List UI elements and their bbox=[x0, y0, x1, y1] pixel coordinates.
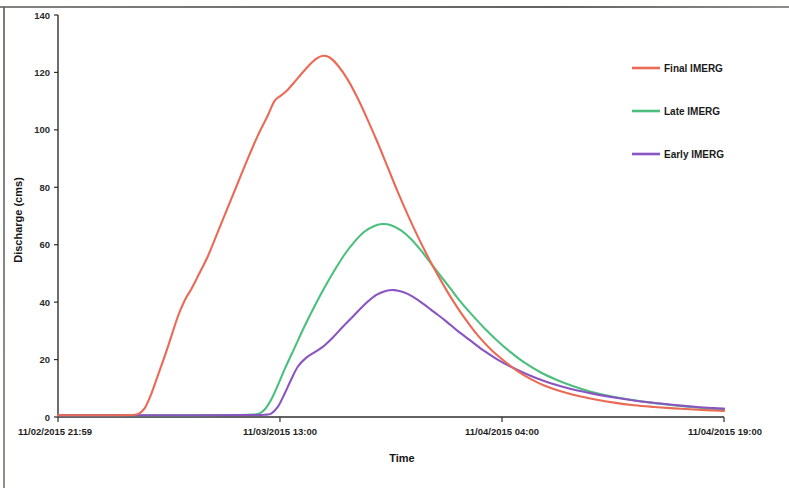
y-axis-title: Discharge (cms) bbox=[12, 177, 24, 263]
x-tick-label: 11/04/2015 04:00 bbox=[465, 426, 539, 437]
x-tick-label: 11/04/2015 19:00 bbox=[688, 426, 762, 437]
y-tick-label: 100 bbox=[34, 124, 50, 135]
x-axis-ticks: 11/02/2015 21:5911/03/2015 13:0011/04/20… bbox=[18, 417, 762, 437]
y-tick-label: 60 bbox=[39, 239, 50, 250]
series-line-late-imerg bbox=[58, 224, 724, 415]
series-line-final-imerg bbox=[58, 56, 724, 416]
y-tick-label: 120 bbox=[34, 67, 50, 78]
y-tick-label: 0 bbox=[45, 412, 50, 423]
x-axis-title: Time bbox=[389, 452, 414, 464]
y-tick-label: 40 bbox=[39, 297, 50, 308]
y-tick-label: 80 bbox=[39, 182, 50, 193]
y-tick-label: 20 bbox=[39, 354, 50, 365]
series-line-early-imerg bbox=[58, 290, 724, 415]
x-tick-label: 11/02/2015 21:59 bbox=[18, 426, 92, 437]
y-axis-ticks: 020406080100120140 bbox=[34, 10, 58, 423]
y-tick-label: 140 bbox=[34, 10, 50, 21]
legend-label-final-imerg: Final IMERG bbox=[664, 63, 723, 74]
legend-label-early-imerg: Early IMERG bbox=[664, 149, 724, 160]
legend-label-late-imerg: Late IMERG bbox=[664, 106, 720, 117]
data-series-group bbox=[58, 56, 724, 416]
chart-canvas: 020406080100120140 11/02/2015 21:5911/03… bbox=[0, 0, 789, 488]
hydrograph-chart-figure: 020406080100120140 11/02/2015 21:5911/03… bbox=[0, 0, 789, 488]
x-tick-label: 11/03/2015 13:00 bbox=[243, 426, 317, 437]
chart-legend: Final IMERGLate IMERGEarly IMERG bbox=[632, 63, 724, 160]
